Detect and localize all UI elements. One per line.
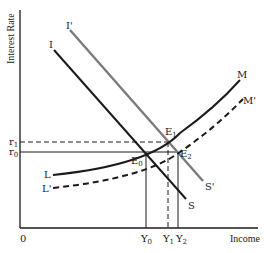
origin-label: 0: [20, 233, 26, 244]
y1-label: Y1: [162, 233, 174, 246]
lm-prime-end-label: M': [243, 95, 256, 106]
is-prime-end-label: S': [205, 181, 215, 192]
e2-label: E2: [180, 148, 192, 161]
is-end-label: S: [188, 200, 195, 211]
lm-start-label: L: [44, 169, 51, 180]
is-lm-diagram: Interest Rate Income 0 I S I' S' L M L' …: [0, 0, 270, 253]
y-axis-label: Interest Rate: [5, 13, 16, 64]
is-start-label: I: [49, 39, 53, 50]
y0-label: Y0: [140, 233, 152, 246]
e1-label: E1: [165, 126, 177, 139]
lm-prime-curve: [53, 99, 243, 188]
x-axis-label: Income: [230, 233, 261, 244]
is-prime-start-label: I': [66, 20, 73, 31]
y2-label: Y2: [175, 233, 187, 246]
lm-prime-start-label: L': [42, 183, 51, 194]
is-curve: [54, 50, 186, 199]
lm-end-label: M: [237, 69, 247, 80]
